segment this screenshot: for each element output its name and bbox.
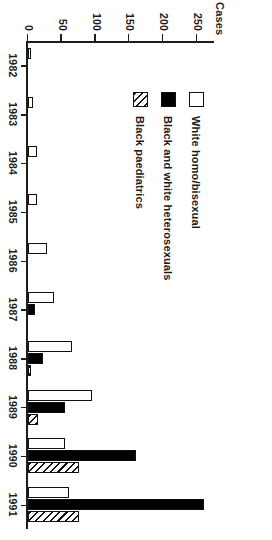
bar-1984-white xyxy=(28,146,37,157)
bar-1988-black xyxy=(28,353,43,364)
value-tick: 200 xyxy=(162,34,163,41)
category-tick xyxy=(21,114,28,115)
category-tick xyxy=(21,212,28,213)
bar-1989-white xyxy=(28,390,92,401)
category-tick xyxy=(21,456,28,457)
value-tick-label: 150 xyxy=(124,13,136,31)
value-tick: 0 xyxy=(27,34,28,41)
category-label-1982: 1982 xyxy=(7,53,19,77)
category-label-1990: 1990 xyxy=(7,444,19,468)
value-tick: 50 xyxy=(60,34,61,41)
bar-1989-black xyxy=(28,402,65,413)
category-label-1988: 1988 xyxy=(7,346,19,370)
category-tick xyxy=(21,65,28,66)
category-tick xyxy=(21,309,28,310)
legend-swatch-hatch xyxy=(133,92,148,107)
bar-1990-hatch xyxy=(28,462,79,473)
category-label-1986: 1986 xyxy=(7,249,19,273)
legend-item: White homo/bisexual xyxy=(189,92,204,281)
bar-1991-hatch xyxy=(28,511,79,522)
category-tick xyxy=(21,505,28,506)
bar-1989-hatch xyxy=(28,414,38,425)
category-label-1983: 1983 xyxy=(7,102,19,126)
value-tick: 250 xyxy=(196,34,197,41)
bar-1988-white xyxy=(28,341,72,352)
legend-item: Black and white heterosexuals xyxy=(161,92,176,281)
category-label-1991: 1991 xyxy=(7,493,19,517)
category-label-1987: 1987 xyxy=(7,297,19,321)
bar-1987-white xyxy=(28,292,54,303)
category-label-1984: 1984 xyxy=(7,151,19,175)
legend-label: White homo/bisexual xyxy=(191,116,203,229)
chart-legend: White homo/bisexualBlack and white heter… xyxy=(120,92,204,281)
category-label-1989: 1989 xyxy=(7,395,19,419)
bar-1988-hatch xyxy=(28,365,31,376)
chart-canvas: Cases 050100150200250 198219831984198519… xyxy=(0,0,232,540)
bar-chart-plot: Cases 050100150200250 198219831984198519… xyxy=(0,0,232,540)
legend-label: Black paediatrics xyxy=(135,116,147,209)
value-tick-label: 200 xyxy=(158,13,170,31)
bar-1991-black xyxy=(28,499,204,510)
legend-item: Black paediatrics xyxy=(133,92,148,281)
bar-1983-white xyxy=(28,97,33,108)
bar-1986-white xyxy=(28,243,47,254)
value-tick-label: 50 xyxy=(57,19,69,31)
value-tick-label: 250 xyxy=(192,13,204,31)
category-tick xyxy=(21,407,28,408)
bar-1990-black xyxy=(28,450,136,461)
value-tick-label: 100 xyxy=(91,13,103,31)
value-tick-label: 0 xyxy=(23,25,35,31)
bar-1985-white xyxy=(28,194,37,205)
category-tick xyxy=(21,163,28,164)
category-tick xyxy=(21,261,28,262)
value-tick: 150 xyxy=(128,34,129,41)
category-label-1985: 1985 xyxy=(7,200,19,224)
legend-swatch-white xyxy=(189,92,204,107)
bar-1991-white xyxy=(28,487,69,498)
value-tick: 100 xyxy=(94,34,95,41)
bar-1990-white xyxy=(28,438,65,449)
category-tick xyxy=(21,358,28,359)
legend-swatch-black xyxy=(161,92,176,107)
legend-label: Black and white heterosexuals xyxy=(163,116,175,281)
bar-1987-black xyxy=(28,304,35,315)
bar-1982-white xyxy=(28,48,31,59)
value-axis-title: Cases xyxy=(214,2,226,35)
value-axis-line xyxy=(28,41,214,43)
